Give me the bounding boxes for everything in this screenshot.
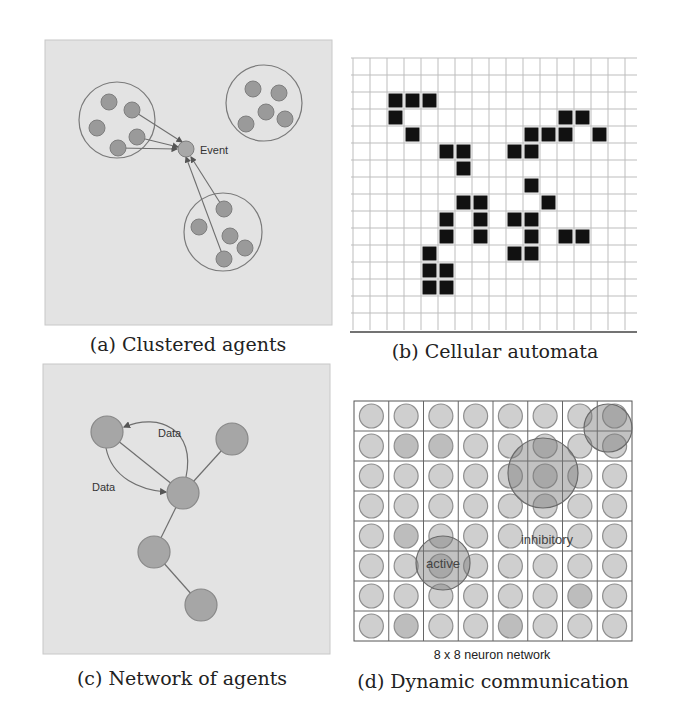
neuron bbox=[603, 554, 627, 578]
data-label-bottom: Data bbox=[92, 481, 116, 493]
neuron bbox=[429, 614, 453, 638]
agent bbox=[101, 94, 117, 110]
neuron bbox=[359, 434, 383, 458]
neuron bbox=[498, 404, 522, 428]
neuron bbox=[359, 494, 383, 518]
neuron bbox=[359, 614, 383, 638]
neuron bbox=[429, 434, 453, 458]
neuron bbox=[359, 524, 383, 548]
neuron bbox=[464, 404, 488, 428]
live-cell bbox=[525, 230, 539, 244]
live-cell bbox=[559, 111, 573, 125]
data-label-top: Data bbox=[158, 427, 182, 439]
neuron bbox=[359, 404, 383, 428]
active-label: active bbox=[426, 556, 460, 571]
neuron bbox=[429, 404, 453, 428]
neuron bbox=[394, 494, 418, 518]
neuron bbox=[568, 554, 592, 578]
panel-dynamic-communication: inhibitory active 8 x 8 neuron network bbox=[354, 401, 632, 662]
panel-cellular-automata bbox=[350, 58, 637, 332]
live-cell bbox=[525, 213, 539, 227]
live-cell bbox=[593, 128, 607, 142]
neuron bbox=[568, 614, 592, 638]
live-cell bbox=[576, 111, 590, 125]
live-cell bbox=[440, 230, 454, 244]
live-cell bbox=[423, 281, 437, 295]
live-cell bbox=[525, 179, 539, 193]
agent bbox=[258, 104, 274, 120]
live-cell bbox=[542, 128, 556, 142]
neuron bbox=[603, 524, 627, 548]
neuron bbox=[394, 404, 418, 428]
live-cell bbox=[440, 213, 454, 227]
agent bbox=[129, 129, 145, 145]
live-cell bbox=[474, 213, 488, 227]
neuron bbox=[394, 614, 418, 638]
caption-c: (c) Network of agents bbox=[77, 667, 287, 689]
live-cell bbox=[457, 196, 471, 210]
agent bbox=[191, 219, 207, 235]
live-cell bbox=[423, 247, 437, 261]
live-cell bbox=[508, 145, 522, 159]
live-cell bbox=[508, 247, 522, 261]
caption-a: (a) Clustered agents bbox=[90, 333, 287, 355]
neuron bbox=[533, 584, 557, 608]
live-cell bbox=[508, 213, 522, 227]
neuron bbox=[603, 614, 627, 638]
neuron bbox=[498, 524, 522, 548]
live-cell bbox=[389, 111, 403, 125]
live-cell bbox=[559, 230, 573, 244]
agent-node bbox=[138, 536, 170, 568]
neuron bbox=[568, 494, 592, 518]
live-cell bbox=[423, 264, 437, 278]
neuron bbox=[533, 614, 557, 638]
agent-node bbox=[216, 423, 248, 455]
neuron bbox=[568, 584, 592, 608]
agent bbox=[216, 201, 232, 217]
neuron bbox=[464, 494, 488, 518]
neuron bbox=[394, 464, 418, 488]
agent bbox=[222, 228, 238, 244]
agent bbox=[216, 251, 232, 267]
neuron bbox=[603, 494, 627, 518]
agent-node bbox=[91, 416, 123, 448]
neuron bbox=[464, 464, 488, 488]
neuron bbox=[394, 524, 418, 548]
agent bbox=[110, 140, 126, 156]
neuron bbox=[464, 524, 488, 548]
live-cell bbox=[457, 162, 471, 176]
agent bbox=[237, 240, 253, 256]
live-cell bbox=[406, 94, 420, 108]
figure-canvas: Event Data Data inhibitory active 8 x 8 … bbox=[0, 0, 680, 727]
neuron bbox=[603, 584, 627, 608]
event-label: Event bbox=[200, 144, 228, 156]
agent bbox=[124, 102, 140, 118]
neuron bbox=[429, 494, 453, 518]
live-cell bbox=[440, 264, 454, 278]
live-cell bbox=[525, 128, 539, 142]
neuron bbox=[603, 464, 627, 488]
live-cell bbox=[576, 230, 590, 244]
live-cell bbox=[542, 196, 556, 210]
agent-node bbox=[185, 589, 217, 621]
neuron bbox=[533, 404, 557, 428]
live-cell bbox=[440, 281, 454, 295]
neuron bbox=[429, 464, 453, 488]
panel-a-background bbox=[45, 40, 332, 325]
neuron bbox=[359, 554, 383, 578]
neuron bbox=[464, 614, 488, 638]
neuron bbox=[394, 554, 418, 578]
live-cell bbox=[525, 145, 539, 159]
live-cell bbox=[389, 94, 403, 108]
neuron bbox=[498, 554, 522, 578]
agent bbox=[238, 116, 254, 132]
neuron bbox=[533, 554, 557, 578]
caption-d: (d) Dynamic communication bbox=[357, 670, 628, 692]
live-cell bbox=[406, 128, 420, 142]
live-cell bbox=[457, 145, 471, 159]
agent bbox=[277, 111, 293, 127]
top-right-region bbox=[584, 404, 632, 452]
neuron bbox=[498, 614, 522, 638]
neuron bbox=[498, 584, 522, 608]
panel-clustered-agents: Event bbox=[45, 40, 332, 325]
